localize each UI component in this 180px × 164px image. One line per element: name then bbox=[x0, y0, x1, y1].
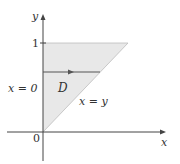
y-axis-label: y bbox=[31, 10, 39, 23]
right-boundary-label: x = y bbox=[79, 95, 108, 108]
region-label: D bbox=[57, 81, 68, 95]
x-axis-label: x bbox=[161, 136, 168, 149]
y-axis-arrow-icon bbox=[41, 14, 46, 20]
x-axis-arrow-icon bbox=[160, 130, 166, 135]
left-boundary-label: x = 0 bbox=[8, 82, 37, 95]
region-diagram: y x 0 1 D x = 0 x = y bbox=[0, 0, 180, 164]
y-tick-label: 1 bbox=[32, 37, 39, 50]
origin-label: 0 bbox=[33, 132, 40, 145]
diagram-svg: y x 0 1 D x = 0 x = y bbox=[0, 0, 180, 164]
